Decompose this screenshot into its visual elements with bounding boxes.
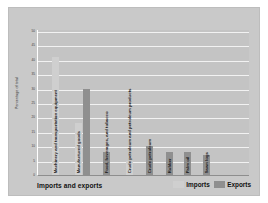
category-label: Manufactured goods — [76, 131, 80, 173]
category-label: Crude petroleum — [147, 139, 151, 173]
y-axis-tick-label: 20 — [32, 117, 35, 120]
y-axis-tick-label: 45 — [32, 45, 35, 48]
y-axis-title: Percentage of total — [15, 77, 19, 109]
category-label: Food, beverages, and tobacco — [104, 111, 108, 173]
y-axis-tick-label: 35 — [32, 74, 35, 77]
legend-label-imports: Imports — [186, 181, 209, 188]
category-label: Sawn logs — [204, 152, 208, 173]
plot-area: 50454035302520151050 Machinery and trans… — [37, 30, 249, 176]
y-axis-tick-label: 10 — [32, 146, 35, 149]
category-label: Rubber — [167, 158, 171, 173]
category-label: Palm oil — [185, 157, 189, 173]
chart-legend: Imports Exports — [173, 181, 251, 188]
y-axis-tick-label: 5 — [33, 160, 35, 163]
legend-swatch-imports — [173, 181, 184, 188]
y-axis-tick-label: 0 — [33, 174, 35, 177]
y-axis-tick-label: 30 — [32, 88, 35, 91]
y-axis-tick-label: 50 — [32, 30, 35, 33]
legend-item-exports: Exports — [214, 181, 251, 188]
y-axis-tick-label: 25 — [32, 102, 35, 105]
legend-label-exports: Exports — [227, 181, 251, 188]
category-label: Machinery and transportation equipment — [53, 90, 57, 173]
category-label: Crude petroleum and petroleum products — [127, 88, 131, 173]
legend-swatch-exports — [214, 181, 225, 188]
bar — [83, 89, 90, 175]
x-axis-title: Imports and exports — [37, 182, 102, 189]
chart-figure: Percentage of total 50454035302520151050… — [9, 8, 259, 195]
bar-series-container — [38, 30, 249, 175]
y-axis-tick-label: 40 — [32, 59, 35, 62]
y-axis-tick-label: 15 — [32, 131, 35, 134]
legend-item-imports: Imports — [173, 181, 210, 188]
